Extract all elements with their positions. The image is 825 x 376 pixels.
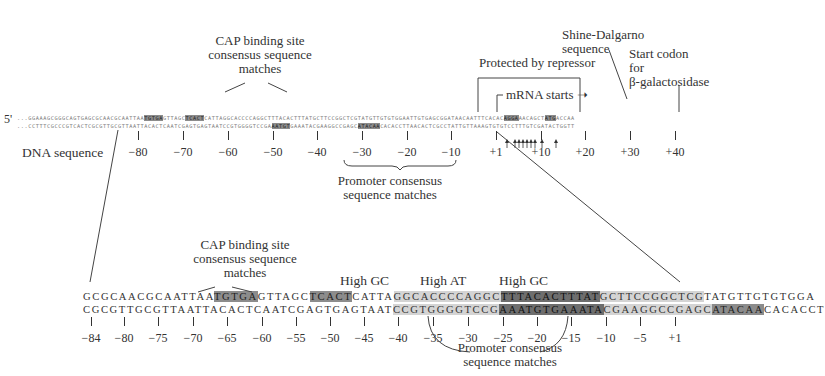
expansion-line-right bbox=[497, 132, 680, 282]
top-cap-pointer-2 bbox=[268, 83, 287, 92]
promoter-10-seq: ATACAA bbox=[712, 304, 764, 315]
bottom-cap-pointer-2 bbox=[232, 287, 252, 292]
bottom-promoter-curve-right bbox=[540, 316, 568, 352]
top-cap-pointer-1 bbox=[225, 83, 245, 92]
bottom-promoter-curve-left bbox=[428, 316, 470, 352]
seq-segment: TATGTTGTGTGGA bbox=[704, 291, 815, 302]
sd-pointer bbox=[609, 50, 627, 99]
top-promoter-brace bbox=[344, 160, 456, 170]
bottom-cap-pointer-1 bbox=[198, 287, 215, 292]
mrna-start-marker bbox=[497, 95, 503, 112]
seq-segment: CACACCT bbox=[764, 304, 825, 315]
repressor-bracket bbox=[478, 78, 580, 112]
repressor-protect-arrows bbox=[505, 139, 558, 143]
expansion-line-left bbox=[90, 130, 118, 282]
